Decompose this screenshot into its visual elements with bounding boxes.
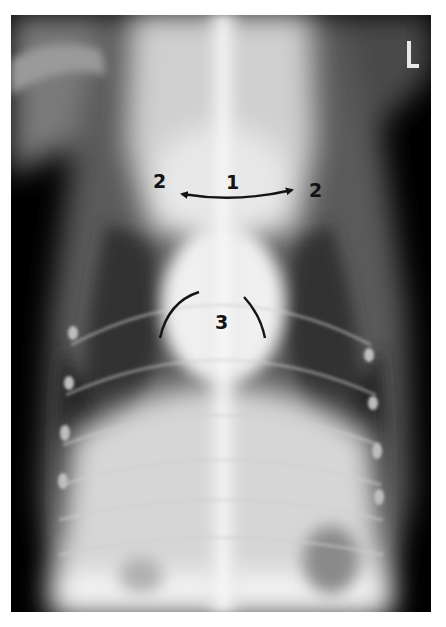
annotation-label-1: 1 xyxy=(226,173,239,192)
annotation-label-3: 3 xyxy=(215,313,228,332)
heart-outline-right-arc xyxy=(244,297,265,338)
heart-outline-left-arc xyxy=(160,292,199,338)
annotation-label-2-right: 2 xyxy=(309,181,322,200)
annotation-label-2-left: 2 xyxy=(153,172,166,191)
